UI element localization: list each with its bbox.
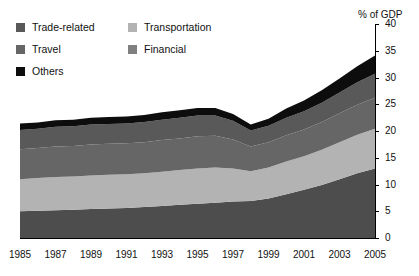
y-tick-mark-10 bbox=[375, 185, 379, 186]
x-tick-label-1991: 1991 bbox=[115, 249, 137, 260]
y-tick-mark-30 bbox=[375, 78, 379, 79]
y-tick-label-0: 0 bbox=[385, 233, 391, 243]
y-tick-mark-35 bbox=[375, 51, 379, 52]
x-tick-label-2005: 2005 bbox=[364, 249, 386, 260]
y-tick-label-25: 25 bbox=[385, 99, 396, 109]
y-tick-mark-20 bbox=[375, 131, 379, 132]
x-tick-label-1999: 1999 bbox=[257, 249, 279, 260]
plot-area bbox=[20, 24, 375, 238]
y-tick-label-10: 10 bbox=[385, 180, 396, 190]
x-tick-label-1993: 1993 bbox=[151, 249, 173, 260]
x-axis-line bbox=[20, 238, 376, 239]
x-tick-label-1995: 1995 bbox=[186, 249, 208, 260]
x-tick-label-1997: 1997 bbox=[222, 249, 244, 260]
stacked-area-chart: Trade-related Transportation Travel Fina… bbox=[0, 0, 419, 276]
y-tick-label-40: 40 bbox=[385, 19, 396, 29]
x-tick-label-1989: 1989 bbox=[80, 249, 102, 260]
y-tick-label-5: 5 bbox=[385, 206, 391, 216]
x-tick-label-1987: 1987 bbox=[44, 249, 66, 260]
y-tick-label-30: 30 bbox=[385, 73, 396, 83]
y-tick-label-35: 35 bbox=[385, 46, 396, 56]
y-tick-mark-5 bbox=[375, 211, 379, 212]
area-series-group bbox=[20, 24, 375, 238]
x-tick-label-2001: 2001 bbox=[293, 249, 315, 260]
y-tick-mark-40 bbox=[375, 24, 379, 25]
y-tick-label-15: 15 bbox=[385, 153, 396, 163]
x-tick-label-2003: 2003 bbox=[328, 249, 350, 260]
y-tick-label-20: 20 bbox=[385, 126, 396, 136]
y-tick-mark-0 bbox=[375, 238, 379, 239]
y-tick-mark-25 bbox=[375, 104, 379, 105]
x-tick-label-1985: 1985 bbox=[9, 249, 31, 260]
y-tick-mark-15 bbox=[375, 158, 379, 159]
